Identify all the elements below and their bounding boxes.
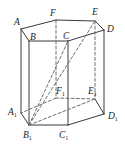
vertex-label-A: A <box>14 18 20 28</box>
diagonal-B1-E <box>29 21 95 125</box>
vertex-label-D: D <box>107 25 114 35</box>
vertex-label-C1: C1 <box>59 131 68 141</box>
vertex-label-F: F <box>50 9 56 19</box>
vertex-label-D1: D1 <box>108 112 118 122</box>
vertex-label-C: C <box>63 32 69 42</box>
diagonal-B1-C <box>29 41 68 125</box>
geometry-figure-hexagonal-prism: A B C D E F A1 B1 C1 D1 E1 F1 <box>0 0 125 152</box>
edge-F-A <box>21 20 56 29</box>
vertex-label-E1: E1 <box>88 87 97 97</box>
edge-A1-B1 <box>21 113 29 125</box>
edge-D-E <box>95 21 104 30</box>
edge-C1-D1 <box>68 114 104 125</box>
vertex-label-B1: B1 <box>23 131 32 141</box>
edge-E-F <box>56 20 95 21</box>
diagonal-B1-E1 <box>29 99 95 125</box>
vertex-label-E: E <box>92 8 98 18</box>
edge-E1-F1 <box>56 98 95 99</box>
vertex-label-A1: A1 <box>8 108 17 118</box>
vertex-label-B: B <box>30 33 36 43</box>
vertex-label-F1: F1 <box>56 87 65 97</box>
edge-D1-E1 <box>95 99 104 114</box>
edge-A-B <box>21 29 29 41</box>
